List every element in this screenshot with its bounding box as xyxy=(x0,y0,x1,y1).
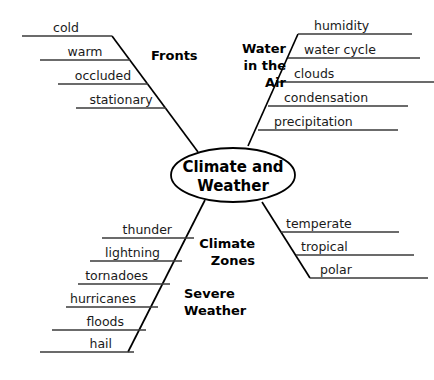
diagram-canvas: cold warm occluded stationary Fronts hum… xyxy=(0,0,434,380)
water-item-precipitation: precipitation xyxy=(274,114,353,129)
fronts-item-cold: cold xyxy=(53,20,79,35)
severe-item-thunder: thunder xyxy=(123,222,173,237)
water-branch-label-line1: Water xyxy=(242,41,287,56)
water-branch-label-line2: in the xyxy=(243,58,286,73)
fronts-item-occluded: occluded xyxy=(75,68,131,83)
branch-climate-zones[interactable]: temperate tropical polar Climate Zones xyxy=(199,202,428,278)
climate-branch-label-line2: Zones xyxy=(211,253,255,268)
climate-item-temperate: temperate xyxy=(286,216,352,231)
severe-item-floods: floods xyxy=(86,314,124,329)
water-branch-label-line3: Air xyxy=(265,75,287,90)
climate-item-polar: polar xyxy=(320,262,353,277)
severe-branch-label-line2: Weather xyxy=(184,303,247,318)
climate-branch-label-line1: Climate xyxy=(199,236,255,251)
severe-branch-label-line1: Severe xyxy=(184,286,235,301)
water-item-clouds: clouds xyxy=(294,66,334,81)
center-node[interactable]: Climate and Weather xyxy=(171,148,295,202)
branch-water-in-the-air[interactable]: humidity water cycle clouds condensation… xyxy=(242,18,434,146)
branch-severe-weather[interactable]: thunder lightning tornadoes hurricanes f… xyxy=(40,200,247,352)
fronts-item-stationary: stationary xyxy=(89,92,153,107)
severe-item-hurricanes: hurricanes xyxy=(70,291,136,306)
fronts-branch-label: Fronts xyxy=(151,48,198,63)
water-item-condensation: condensation xyxy=(284,90,368,105)
water-item-water-cycle: water cycle xyxy=(304,42,376,57)
branch-fronts[interactable]: cold warm occluded stationary Fronts xyxy=(22,20,198,152)
climate-item-tropical: tropical xyxy=(301,239,348,254)
fishbone-diagram: cold warm occluded stationary Fronts hum… xyxy=(0,0,434,380)
center-title-line2: Weather xyxy=(197,177,269,195)
water-item-humidity: humidity xyxy=(314,18,370,33)
severe-item-lightning: lightning xyxy=(105,245,160,260)
severe-item-tornadoes: tornadoes xyxy=(85,268,148,283)
center-title-line1: Climate and xyxy=(182,158,283,176)
fronts-item-warm: warm xyxy=(68,44,103,59)
severe-item-hail: hail xyxy=(89,336,112,351)
